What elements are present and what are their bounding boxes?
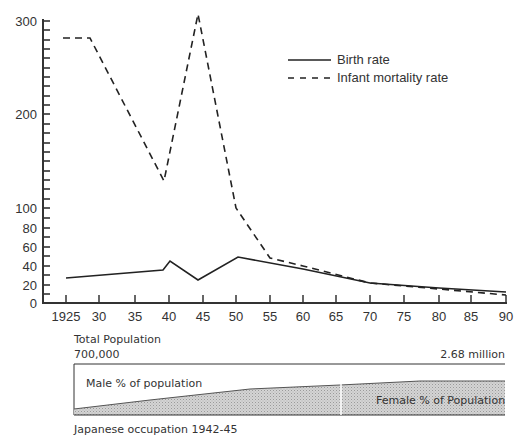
legend-birth-rate: Birth rate <box>337 52 390 67</box>
x-tick-1925: 1925 <box>52 309 81 324</box>
x-tick-50: 50 <box>229 309 243 324</box>
x-tick-45: 45 <box>196 309 210 324</box>
y-axis: 300 200 100 80 60 40 20 0 <box>15 14 50 311</box>
x-tick-85: 85 <box>464 309 478 324</box>
x-tick-90: 90 <box>499 309 513 324</box>
x-axis: 1925 30 35 40 45 50 55 60 65 70 75 80 85… <box>42 295 513 324</box>
x-tick-60: 60 <box>296 309 310 324</box>
y-tick-200: 200 <box>15 107 37 122</box>
y-axis-minor-ticks <box>43 21 50 294</box>
x-tick-30: 30 <box>92 309 106 324</box>
birth-rate-line <box>66 257 506 292</box>
y-tick-20: 20 <box>23 278 37 293</box>
x-tick-40: 40 <box>162 309 176 324</box>
legend: Birth rate Infant mortality rate <box>288 52 448 85</box>
male-label: Male % of population <box>86 377 202 390</box>
y-tick-40: 40 <box>23 259 37 274</box>
population-start-value: 700,000 <box>74 348 120 361</box>
x-tick-70: 70 <box>363 309 377 324</box>
population-end-value: 2.68 million <box>440 348 505 361</box>
y-tick-300: 300 <box>15 14 37 29</box>
x-tick-75: 75 <box>397 309 411 324</box>
population-title: Total Population <box>74 333 161 346</box>
female-label: Female % of Population <box>376 394 505 407</box>
line-chart: 300 200 100 80 60 40 20 0 1925 30 35 <box>0 0 527 442</box>
occupation-footnote: Japanese occupation 1942-45 <box>74 423 238 436</box>
y-tick-80: 80 <box>23 221 37 236</box>
x-tick-80: 80 <box>432 309 446 324</box>
x-tick-35: 35 <box>128 309 142 324</box>
legend-infant-mortality: Infant mortality rate <box>337 70 448 85</box>
y-tick-60: 60 <box>23 240 37 255</box>
x-tick-65: 65 <box>329 309 343 324</box>
y-tick-100: 100 <box>15 201 37 216</box>
x-tick-55: 55 <box>263 309 277 324</box>
y-tick-0: 0 <box>30 296 37 311</box>
infant-mortality-line <box>63 14 506 295</box>
